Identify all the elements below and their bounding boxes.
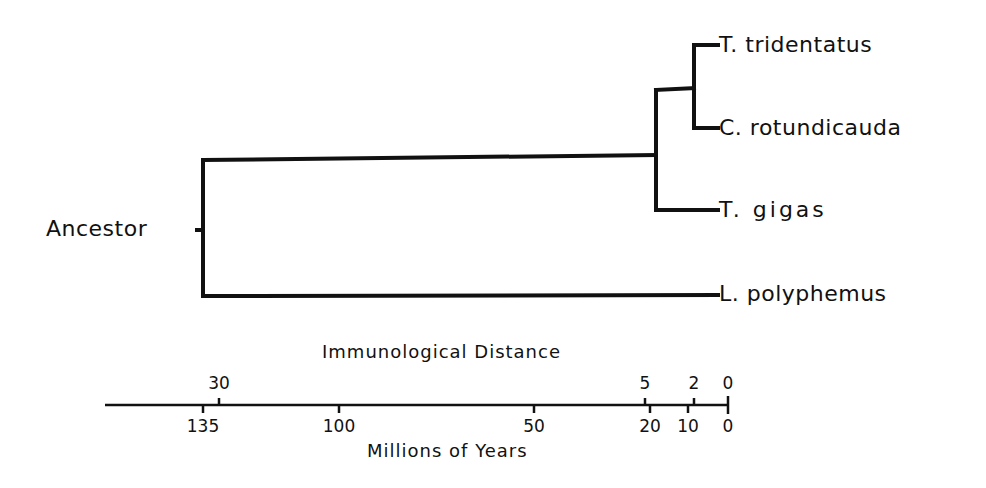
leaf-label-l-polyphemus: L. polyphemus	[719, 281, 887, 306]
axis-title-immunological-distance: Immunological Distance	[322, 341, 561, 362]
leaf-label-t-tridentatus: T. tridentatus	[719, 32, 872, 57]
tree-diagram	[0, 0, 986, 488]
branch-l-polyphemus	[203, 295, 718, 296]
bottom-tick-label: 0	[723, 416, 734, 436]
bottom-tick-label: 10	[677, 416, 699, 436]
top-tick-label: 0	[723, 373, 734, 393]
bottom-tick-label: 135	[187, 416, 219, 436]
bottom-tick-label: 50	[523, 416, 545, 436]
axis-title-millions-of-years: Millions of Years	[367, 440, 528, 461]
bottom-tick-label: 100	[323, 416, 355, 436]
top-tick-label: 30	[208, 373, 230, 393]
ancestor-label: Ancestor	[46, 216, 147, 241]
leaf-label-c-rotundicauda: C. rotundicauda	[719, 115, 901, 140]
top-tick-label: 2	[689, 373, 700, 393]
top-tick-label: 5	[640, 373, 651, 393]
branch-inner	[656, 88, 694, 90]
leaf-label-t-gigas: T. gigas	[719, 197, 827, 222]
branch-clade	[203, 155, 656, 160]
bottom-tick-label: 20	[639, 416, 661, 436]
